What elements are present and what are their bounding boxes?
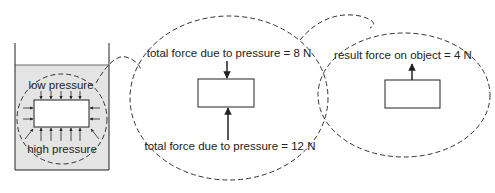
submerged-object	[34, 100, 89, 127]
right-object	[385, 80, 440, 108]
low-pressure-label: low pressure	[28, 79, 93, 91]
result-force-label: result force on object = 4 N	[334, 49, 472, 61]
pressure-force-diagram: low pressure high pressure total force d…	[0, 0, 495, 193]
zoom-connector-right	[300, 15, 374, 40]
bottom-force-label: total force due to pressure = 12 N	[144, 140, 315, 152]
middle-object	[198, 79, 254, 107]
high-pressure-label: high pressure	[27, 143, 97, 155]
top-force-label: total force due to pressure = 8 N	[147, 47, 312, 59]
